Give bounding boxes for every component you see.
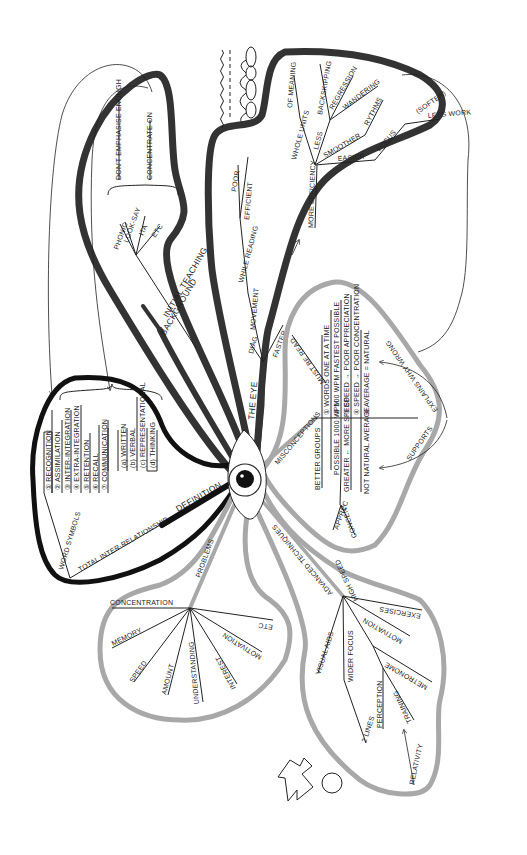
technique-item: MOTIVATION (361, 617, 403, 645)
problem-item: AMOUNT (160, 662, 175, 695)
definition-item: ⑥ RECALL (92, 453, 99, 490)
communication-item: (d) THINKING (149, 422, 157, 468)
label-must-be-read: MUST BE READ (289, 337, 326, 386)
label-movement: MOVEMENT (249, 287, 260, 330)
misconception-counter: GREATER ← MORE SPEED (343, 397, 350, 492)
label-diag: DIAG (247, 335, 258, 354)
definition-item: ⑦ COMMUNICATION (101, 419, 108, 490)
label-definition: DEFINITION (174, 479, 223, 513)
problem-item: MEMORY (110, 626, 142, 647)
communication-item: (b) VERBAL (129, 428, 137, 468)
problem-item: CONCENTRATION (110, 599, 173, 606)
problem-item: MOTIVATION (221, 632, 262, 662)
label-concentrate-on: CONCENTRATE ON (146, 112, 153, 180)
problem-item: SPEED (128, 659, 148, 683)
label-ita: ITA (138, 223, 149, 236)
label-perception: PERCEPTION (376, 680, 383, 728)
label-training: TRAINING (392, 690, 413, 725)
label-less: LESS (312, 130, 324, 150)
definition-item: ④ EXTRA-INTEGRATION (73, 405, 80, 490)
misconception-counter: BETTER GROUPS (314, 427, 321, 490)
technique-item: WIDER FOCUS (347, 630, 354, 682)
communication-item: (a) WRITTEN (120, 423, 128, 468)
eye-movement-illustration (221, 47, 257, 128)
technique-item: VISUAL AIDS (314, 630, 335, 675)
label-rythms: RYTHMS (363, 96, 384, 126)
definition-item: ① RECOGNITION (45, 430, 52, 490)
misconception-item: ① WORDS ONE AT A TIME (323, 325, 330, 415)
branch-background[interactable] (79, 74, 245, 478)
technique-item: EXERCISES (379, 606, 422, 620)
misconception-item: ⑤ AVERAGE = NATURAL (363, 330, 370, 415)
misconception-counter: POSSIBLE 1000 WPM (333, 400, 340, 475)
label-easier: EASIER (337, 153, 364, 162)
problem-item: UNDERSTANDING (188, 641, 200, 705)
label-word-symbols: WORD SYMBOLS (57, 510, 81, 570)
shapes-illustration (278, 758, 342, 801)
problem-item: ETC (258, 622, 273, 631)
label-etc-bg: ETC (150, 223, 164, 239)
misconception-item: ④ SPEED → POOR CONCENTRATION (353, 284, 360, 415)
definition-item: ⑤ RETENTION (83, 439, 90, 490)
communication-item: (c) REPRESENTATIONAL (139, 382, 147, 468)
definition-item: ② ASSIMILATION (54, 431, 61, 490)
technique-item: HIGH SPEED (333, 559, 358, 603)
misconception-counter: NOT NATURAL AVERAGE (363, 407, 370, 494)
label-dont-emphasise: DON'T EMPHASISE ENOUGH (115, 79, 122, 180)
misconception-item: ② 500 WPM FASTEST POSSIBLE (333, 301, 340, 415)
label-while-reading: WHILE READING (237, 225, 259, 283)
definition-item: ③ INTER-INTEGRATION (64, 408, 71, 490)
problem-item: INTEREST (214, 655, 237, 691)
label-2-lines: 2 LINES (360, 715, 375, 743)
mind-map: BACKGROUND INITIAL TEACHING PHONIC LOOK-… (0, 0, 527, 855)
misconception-item: ③ SPEED → POOR APPRECIATION (343, 293, 350, 415)
